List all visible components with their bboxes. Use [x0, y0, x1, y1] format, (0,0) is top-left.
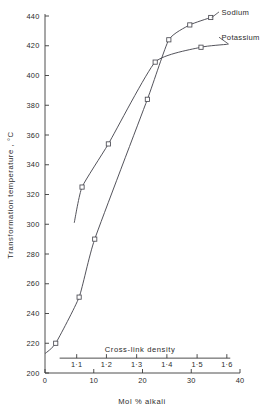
series-label-leader-sodium [212, 12, 219, 18]
y-axis-tick-label: 440 [27, 12, 40, 21]
x-axis-tick-label: 0 [43, 376, 47, 385]
data-point-potassium [153, 60, 157, 64]
y-axis-tick-label: 240 [27, 309, 40, 318]
secondary-axis-tick-label: 1·5 [191, 360, 202, 369]
data-point-sodium [145, 97, 149, 101]
secondary-axis-tick-label: 1·2 [101, 360, 112, 369]
data-point-sodium [77, 295, 81, 299]
series-labels-group: SodiumPotassium [212, 8, 260, 45]
x-axis-tick-label: 30 [187, 376, 196, 385]
y-axis-tick-label: 280 [27, 250, 40, 259]
secondary-axis-title: Cross-link density [105, 345, 176, 354]
secondary-axis-tick-label: 1·3 [131, 360, 142, 369]
chart-canvas: 440420400380360340320300280260240220200 … [0, 0, 261, 415]
y-axis-tick-label: 420 [27, 41, 40, 50]
y-axis-tick-label: 320 [27, 190, 40, 199]
secondary-x-axis-cross-link-density: 1·11·21·31·41·51·6Cross-link density [60, 345, 233, 369]
data-point-sodium [54, 341, 58, 345]
x-axis-tick-label: 10 [89, 376, 98, 385]
y-axis-title: Transformation temperature , °C [6, 131, 15, 258]
x-axis-title: Mol % alkali [118, 397, 166, 406]
series-line-sodium [45, 17, 211, 353]
data-point-sodium [188, 23, 192, 27]
series-potassium [74, 44, 228, 223]
secondary-axis-tick-label: 1·4 [161, 360, 172, 369]
data-point-sodium [93, 237, 97, 241]
series-label-potassium: Potassium [222, 33, 260, 42]
x-axis-tick-label: 20 [138, 376, 147, 385]
y-axis-tick-label: 220 [27, 339, 40, 348]
y-axis-tick-label: 400 [27, 71, 40, 80]
secondary-axis-tick-label: 1·6 [221, 360, 232, 369]
series-label-sodium: Sodium [222, 8, 250, 17]
x-axis-tick-label: 40 [236, 376, 245, 385]
y-axis-tick-label: 340 [27, 160, 40, 169]
data-point-sodium [167, 38, 171, 42]
series-sodium [45, 15, 213, 353]
series-line-potassium [74, 44, 228, 223]
data-point-potassium [80, 185, 84, 189]
y-axis-tick-label: 380 [27, 101, 40, 110]
y-axis-tick-label: 300 [27, 220, 40, 229]
data-point-potassium [199, 45, 203, 49]
y-axis-tick-label: 360 [27, 131, 40, 140]
y-axis: 440420400380360340320300280260240220200 [27, 12, 49, 378]
secondary-axis-tick-label: 1·1 [71, 360, 82, 369]
y-axis-tick-label: 200 [27, 369, 40, 378]
x-axis: 010203040 [43, 369, 244, 385]
y-axis-tick-label: 260 [27, 279, 40, 288]
data-point-potassium [106, 142, 110, 146]
data-series-group [45, 15, 228, 353]
chart-figure: 440420400380360340320300280260240220200 … [0, 0, 261, 415]
